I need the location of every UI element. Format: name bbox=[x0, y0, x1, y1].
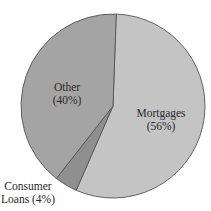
label-other: Other (40%) bbox=[50, 81, 84, 106]
label-other-name: Other bbox=[50, 81, 84, 93]
label-consumer-line1: Consumer bbox=[0, 180, 56, 192]
label-mortgages-percent: (56%) bbox=[132, 120, 190, 132]
label-mortgages-name: Mortgages bbox=[132, 107, 190, 119]
pie-slices bbox=[21, 14, 205, 198]
label-consumer-loans: Consumer Loans (4%) bbox=[0, 180, 56, 205]
label-mortgages: Mortgages (56%) bbox=[132, 107, 190, 132]
label-other-percent: (40%) bbox=[50, 94, 84, 106]
label-consumer-line2: Loans (4%) bbox=[0, 193, 56, 205]
